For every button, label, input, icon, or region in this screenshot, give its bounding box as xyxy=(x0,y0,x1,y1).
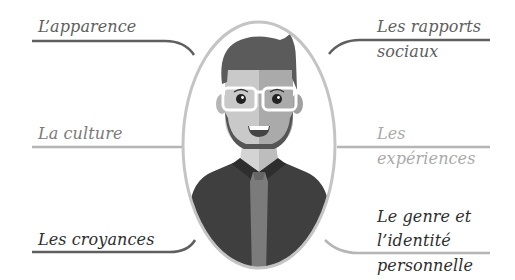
label-gender-line3: personnelle xyxy=(377,256,473,276)
label-social-relations-line2: sociaux xyxy=(377,42,439,62)
label-gender-line2: l’identité xyxy=(377,231,451,251)
tie xyxy=(250,172,268,275)
connector-appearance xyxy=(32,41,194,55)
label-appearance: L’apparence xyxy=(38,17,136,37)
label-experiences-line1: Les xyxy=(377,124,406,144)
label-social-relations-line1: Les rapports xyxy=(377,17,481,37)
label-experiences-line2: expériences xyxy=(377,149,475,169)
label-beliefs: Les croyances xyxy=(38,230,154,250)
label-gender-line1: Le genre et xyxy=(377,207,471,227)
eye-left xyxy=(236,94,246,104)
label-culture: La culture xyxy=(38,124,122,144)
diagram-canvas: L’apparence La culture Les croyances Les… xyxy=(0,0,515,280)
eye-right xyxy=(272,94,282,104)
